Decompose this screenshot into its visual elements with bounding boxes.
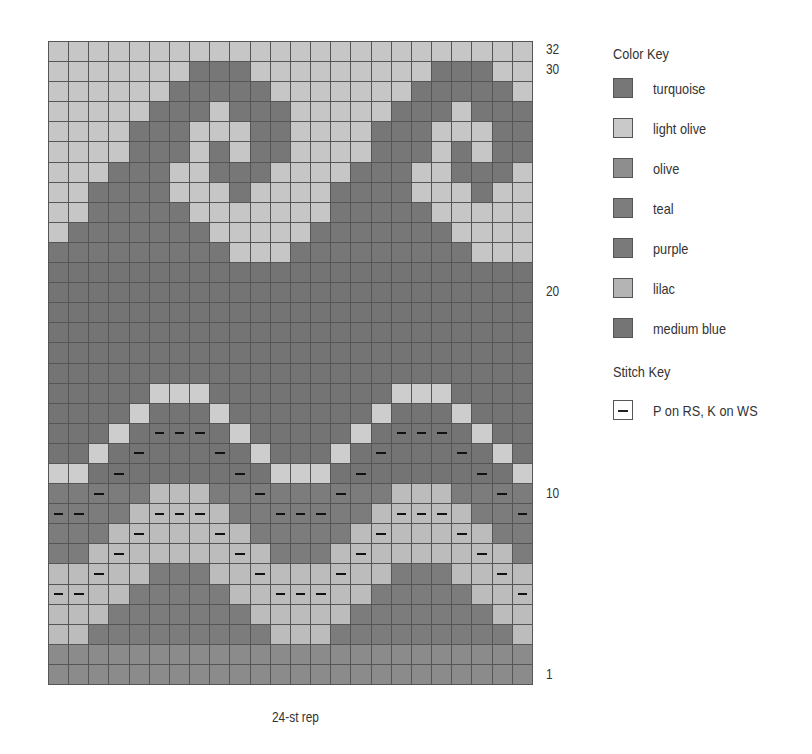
chart-cell [190,42,209,61]
chart-cell [230,484,249,503]
chart-cell [372,605,391,624]
chart-cell [89,444,108,463]
chart-cell [89,82,108,101]
chart-cell [69,283,88,302]
chart-cell [69,424,88,443]
chart-cell [351,504,370,523]
chart-cell [432,645,451,664]
chart-cell [351,283,370,302]
chart-cell [432,62,451,81]
chart-cell [49,283,68,302]
key-label: purple [653,240,688,257]
chart-cell [89,384,108,403]
chart-cell [271,82,290,101]
chart-cell [130,564,149,583]
chart-cell [190,62,209,81]
chart-cell [69,605,88,624]
chart-cell [109,263,128,282]
chart-cell [291,625,310,644]
chart-cell [351,42,370,61]
chart-cell [372,444,391,463]
key-item-turquoise: turquoise [613,78,715,98]
chart-cell [69,203,88,222]
purl-dash-icon [235,553,245,555]
chart-cell [89,62,108,81]
chart-cell [392,183,411,202]
chart-cell [170,42,189,61]
chart-cell [392,62,411,81]
chart-cell [372,404,391,423]
purl-dash-icon [497,573,507,575]
chart-cell [109,504,128,523]
chart-cell [170,404,189,423]
chart-cell [230,163,249,182]
purl-dash-icon [477,553,487,555]
chart-cell [513,102,532,121]
chart-cell [472,384,491,403]
chart-cell [210,605,229,624]
chart-cell [130,343,149,362]
chart-cell [372,645,391,664]
chart-cell [210,263,229,282]
chart-cell [190,364,209,383]
chart-cell [493,303,512,322]
chart-cell [89,343,108,362]
chart-cell [130,142,149,161]
chart-cell [472,82,491,101]
chart-cell [49,424,68,443]
chart-cell [432,424,451,443]
chart-cell [392,122,411,141]
chart-cell [412,163,431,182]
chart-cell [89,243,108,262]
chart-cell [452,404,471,423]
chart-cell [170,464,189,483]
chart-cell [472,585,491,604]
chart-cell [130,243,149,262]
chart-cell [230,283,249,302]
swatch-teal [613,198,633,218]
chart-cell [230,625,249,644]
chart-cell [331,484,350,503]
chart-cell [190,585,209,604]
chart-cell [331,404,350,423]
chart-cell [412,343,431,362]
chart-cell [109,564,128,583]
purl-dash-icon [134,533,144,535]
key-item-lilac: lilac [613,278,679,298]
chart-cell [351,605,370,624]
chart-cell [311,625,330,644]
purl-dash-icon [134,452,144,454]
chart-cell [251,203,270,222]
chart-cell [49,223,68,242]
chart-cell [412,82,431,101]
chart-cell [251,323,270,342]
chart-cell [472,665,491,684]
chart-cell [432,203,451,222]
chart-cell [311,605,330,624]
chart-cell [251,223,270,242]
chart-cell [513,464,532,483]
chart-cell [331,122,350,141]
chart-cell [210,645,229,664]
chart-cell [170,183,189,202]
chart-cell [311,384,330,403]
chart-cell [109,42,128,61]
chart-cell [493,183,512,202]
chart-cell [230,243,249,262]
chart-cell [109,544,128,563]
chart-cell [130,544,149,563]
chart-cell [130,122,149,141]
chart-cell [271,364,290,383]
chart-cell [372,564,391,583]
chart-cell [170,263,189,282]
chart-cell [331,263,350,282]
chart-cell [472,283,491,302]
purl-dash-icon [114,473,124,475]
chart-cell [150,404,169,423]
chart-cell [130,62,149,81]
chart-cell [432,384,451,403]
chart-cell [150,323,169,342]
chart-cell [130,82,149,101]
chart-cell [210,404,229,423]
row-number-30: 30 [546,61,559,77]
